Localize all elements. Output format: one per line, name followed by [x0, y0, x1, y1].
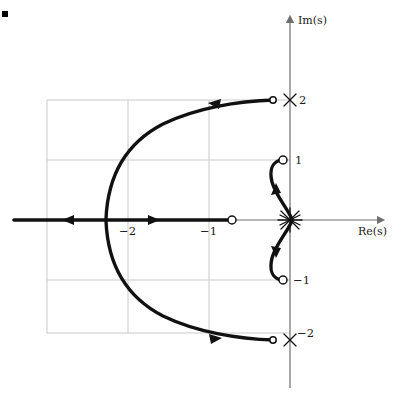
- zero-marker-near-plus-2j: [270, 97, 276, 103]
- real-axis-label: Re(s): [358, 225, 387, 238]
- tick-label-imag-2: 2: [299, 93, 306, 107]
- imaginary-axis-label: Im(s): [298, 14, 327, 27]
- root-locus-figure: Im(s) Re(s) −2 −1 2 1 −1 −2: [0, 0, 410, 404]
- tick-label-real--1: −1: [200, 224, 217, 238]
- corner-square-mark: [2, 11, 8, 17]
- root-locus-canvas: [0, 0, 410, 404]
- zero-marker-at-minus-1j: [279, 276, 287, 284]
- zero-marker-near-minus-2j: [270, 337, 276, 343]
- tick-label-real--2: −2: [119, 224, 136, 238]
- tick-label-imag--2: −2: [297, 326, 314, 340]
- grid-lines: [47, 100, 290, 333]
- pole-marker-x-at-origin: [278, 208, 302, 232]
- arrow-real-axis-right: [148, 215, 160, 225]
- tick-label-imag--1: −1: [293, 273, 310, 287]
- zero-marker-at-plus-1j: [279, 156, 287, 164]
- arrow-real-axis-left: [62, 215, 74, 225]
- zero-marker-on-real-axis: [228, 216, 236, 224]
- tick-label-imag-1: 1: [295, 153, 302, 167]
